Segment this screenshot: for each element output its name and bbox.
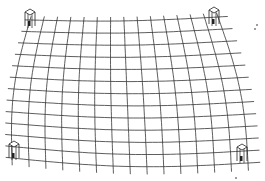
post-bottom-right-icon (237, 144, 247, 163)
grid-col-line (124, 17, 131, 174)
grid-row-line (22, 29, 232, 33)
grid-row-line (6, 157, 260, 166)
grid-col-line (111, 17, 114, 173)
grid-row-line (13, 65, 245, 69)
ink-speck (254, 28, 256, 30)
grid-row-line (6, 135, 259, 143)
grid-row-line (18, 41, 236, 45)
grid-mesh (6, 13, 260, 174)
grid-col-line (137, 17, 147, 174)
ink-speck (256, 24, 258, 26)
ink-speck (235, 177, 237, 179)
grid-col-line (45, 17, 58, 168)
grid-col-line (95, 18, 98, 173)
grid-row-line (6, 123, 257, 130)
grid-row-line (25, 17, 227, 22)
grid-sketch (0, 0, 265, 181)
grid-row-line (10, 77, 248, 81)
grid-col-line (78, 17, 84, 171)
grid-row-line (7, 100, 254, 106)
post-bottom-left-icon (9, 141, 19, 160)
ink-specks (235, 24, 258, 179)
grid-row-line (8, 89, 251, 94)
grid-col-line (164, 16, 181, 174)
grid-row-line (6, 146, 259, 155)
post-top-left-icon (25, 9, 35, 28)
grid-col-line (62, 17, 71, 170)
grid-col-line (150, 17, 164, 174)
grid-row-line (6, 112, 256, 118)
grid-col-line (28, 17, 44, 167)
grid-row-line (15, 53, 241, 57)
